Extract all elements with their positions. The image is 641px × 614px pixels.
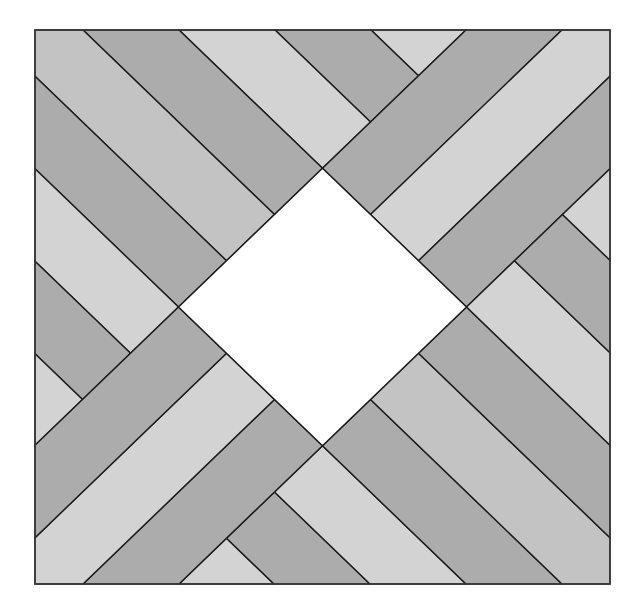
quilt-block xyxy=(35,30,610,584)
quilt-block-diagram xyxy=(0,0,641,614)
